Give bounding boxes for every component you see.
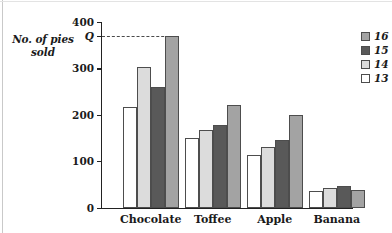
y-tick-mark (97, 208, 101, 209)
y-tick-mark (97, 115, 101, 116)
y-tick-mark (97, 68, 101, 69)
y-tick-label: 300 (72, 62, 94, 74)
y-tick-label: 100 (72, 155, 94, 167)
x-axis-category-label: Toffee (194, 213, 231, 226)
y-tick-label: 0 (87, 202, 94, 214)
legend-swatch-icon (361, 32, 370, 41)
legend-item: 15 (361, 43, 392, 57)
bar (289, 115, 303, 207)
legend-label: 14 (374, 59, 389, 70)
bar (123, 107, 137, 208)
legend-swatch-icon (361, 74, 370, 83)
x-axis-category-label: Apple (257, 213, 292, 226)
bar (323, 188, 337, 207)
bar-chart-figure: No. of pies sold 0100200300400 Q Chocola… (0, 0, 392, 233)
bar (199, 130, 213, 208)
legend-swatch-icon (361, 46, 370, 55)
bar (151, 87, 165, 208)
x-axis-line (101, 208, 353, 209)
y-tick-label: 400 (72, 16, 94, 28)
legend-label: 13 (374, 73, 389, 84)
legend-swatch-icon (361, 60, 370, 69)
bar (309, 191, 323, 208)
y-axis-title: No. of pies sold (6, 33, 80, 59)
chart-legend: 16151413 (361, 29, 392, 86)
plot-area: 0100200300400 Q ChocolateToffeeAppleBana… (101, 22, 353, 209)
bar (337, 186, 351, 207)
legend-item: 16 (361, 29, 392, 43)
legend-item: 14 (361, 57, 392, 71)
bar (185, 138, 199, 208)
bar (247, 155, 261, 207)
bar (227, 105, 241, 208)
bar-group: Toffee (185, 22, 241, 208)
bar-group: Banana (309, 22, 365, 208)
y-axis-line (101, 22, 102, 209)
bar (213, 125, 227, 208)
bar (275, 140, 289, 208)
q-tick-mark (97, 36, 101, 37)
bar-group: Apple (247, 22, 303, 208)
bar (165, 36, 179, 208)
y-tick-label: 200 (72, 109, 94, 121)
x-axis-category-label: Banana (313, 213, 360, 226)
legend-item: 13 (361, 72, 392, 86)
q-tick-label: Q (85, 30, 94, 42)
bar (137, 67, 151, 208)
y-tick-mark (97, 161, 101, 162)
legend-label: 16 (374, 31, 389, 42)
bar (351, 190, 365, 208)
x-axis-category-label: Chocolate (120, 213, 182, 226)
bar-group: Chocolate (123, 22, 179, 208)
y-tick-mark (97, 22, 101, 23)
bar (261, 147, 275, 208)
legend-label: 15 (374, 45, 389, 56)
